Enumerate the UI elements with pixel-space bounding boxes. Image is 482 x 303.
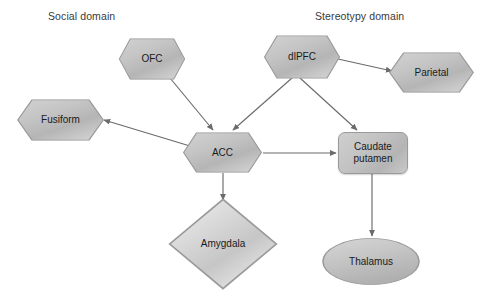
- node-label: dlPFC: [286, 51, 318, 63]
- node-dlpfc[interactable]: dlPFC: [263, 35, 341, 79]
- node-ofc[interactable]: OFC: [118, 38, 186, 80]
- node-thalamus[interactable]: Thalamus: [322, 238, 420, 285]
- edge-dlpfc-to-parietal: [338, 59, 392, 71]
- diagram-canvas: Social domain Stereotypy domain OFC dlPF…: [0, 0, 482, 303]
- edge-ofc-to-acc: [170, 78, 213, 130]
- node-label: ACC: [210, 147, 235, 159]
- node-label: Thalamus: [347, 256, 395, 268]
- node-caudate-putamen[interactable]: Caudate putamen: [338, 132, 408, 174]
- domain-label-stereotypy: Stereotypy domain: [315, 10, 404, 22]
- edge-acc-to-fusiform: [104, 120, 190, 146]
- node-parietal[interactable]: Parietal: [388, 52, 475, 93]
- domain-label-social: Social domain: [48, 10, 115, 22]
- node-label: Parietal: [413, 67, 451, 79]
- edge-dlpfc-to-caudate: [300, 78, 357, 130]
- node-label: Fusiform: [39, 114, 82, 126]
- edge-dlpfc-to-acc: [233, 78, 292, 130]
- node-fusiform[interactable]: Fusiform: [16, 99, 105, 141]
- node-label: Amygdala: [199, 238, 247, 250]
- node-acc[interactable]: ACC: [182, 132, 263, 173]
- node-label: OFC: [139, 53, 164, 65]
- node-amygdala[interactable]: Amygdala: [168, 198, 278, 290]
- node-label: Caudate putamen: [352, 141, 395, 165]
